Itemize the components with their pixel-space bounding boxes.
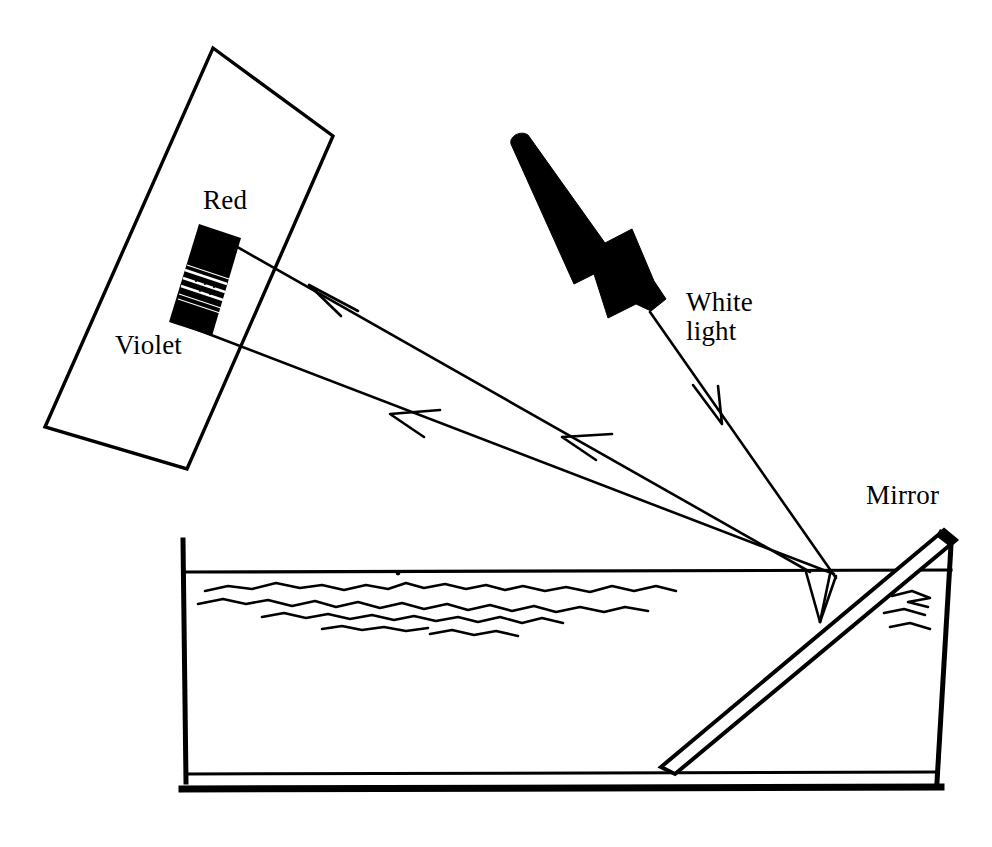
- mirror-body: [661, 530, 956, 774]
- figure-canvas: Red Violet Whitelight Mirror: [0, 0, 992, 847]
- water-surface-line: [184, 570, 951, 572]
- white-light-label: Whitelight: [686, 288, 753, 346]
- water-surface-ripples: [198, 583, 930, 636]
- white-light-label-line1: White: [686, 287, 753, 317]
- tank-right-wall: [937, 545, 951, 782]
- optics-diagram-svg: [0, 0, 992, 847]
- spectrum-red-label: Red: [203, 186, 247, 215]
- surface-marker-dot: [396, 571, 401, 576]
- tank-left-wall: [183, 540, 186, 782]
- spectrum-violet-label: Violet: [115, 331, 182, 360]
- incident-ray-arrowhead: [693, 385, 722, 424]
- tank-bottom-outer-line: [182, 787, 941, 789]
- spectrum-band: [140, 221, 241, 336]
- light-source-arrow: [511, 133, 666, 318]
- tank-bottom-inner-line: [186, 772, 938, 774]
- white-light-label-line2: light: [686, 316, 737, 346]
- emergent-violet-ray: [172, 320, 834, 574]
- reflected-ray-to-surface: [806, 572, 820, 622]
- mirror-label: Mirror: [866, 481, 939, 510]
- spectrum-band-fill: [169, 224, 241, 336]
